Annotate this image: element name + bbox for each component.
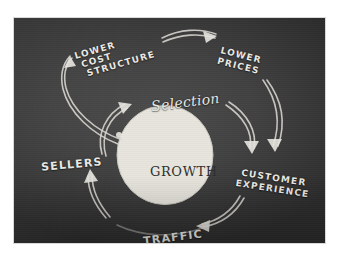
arrow-customer-experience-to-traffic [196, 196, 244, 232]
arrow-traffic-to-sellers [84, 169, 110, 218]
flywheel-photo: LOWER COST STRUCTURE LOWER PRICES Select… [14, 18, 325, 243]
arrow-lower-cost-to-lower-prices [162, 30, 217, 43]
growth-hub-circle [117, 106, 213, 205]
arrow-lower-prices-to-customer-experience [263, 80, 282, 152]
hub-label-growth: GROWTH [150, 164, 218, 179]
arrow-selection-to-customer-experience [226, 102, 259, 154]
chalk-blob [116, 132, 122, 138]
page-canvas: LOWER COST STRUCTURE LOWER PRICES Select… [0, 0, 340, 256]
flywheel-sketch [14, 18, 325, 243]
